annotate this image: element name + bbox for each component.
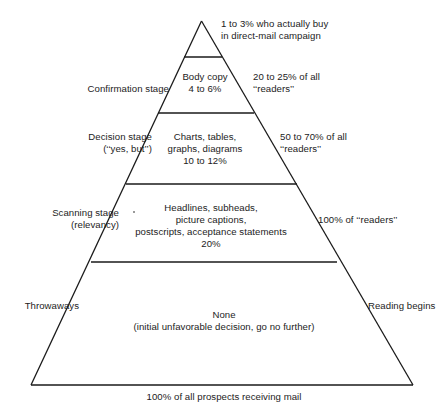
scanning-content-line2: picture captions, (176, 214, 247, 226)
decision-content-line2: graphs, diagrams (168, 143, 243, 155)
base-caption: 100% of all prospects receiving mail (147, 391, 302, 403)
decision-content-line3: 10 to 12% (183, 155, 227, 167)
scanning-stage-label-line2: (relevancy) (71, 219, 119, 231)
pyramid-diagram: 1 to 3% who actually buy in direct-mail … (0, 0, 447, 411)
base-right-label: Reading begins (368, 300, 435, 312)
scanning-stage-label-line1: Scanning stage (52, 207, 119, 219)
scanning-content-line3: postscripts, acceptance statements (135, 226, 287, 238)
confirmation-right-label-line1: 20 to 25% of all (253, 71, 320, 83)
confirmation-stage-label: Confirmation stage (88, 83, 169, 95)
confirmation-content-line2: 4 to 6% (189, 83, 222, 95)
decision-stage-label-line1: Decision stage (88, 131, 152, 143)
decision-right-label-line2: ‘‘readers’’ (280, 143, 321, 155)
print-speck (133, 211, 135, 213)
base-content-line1: None (212, 309, 235, 321)
base-content-line2: (initial unfavorable decision, go no fur… (134, 321, 315, 333)
scanning-content-line1: Headlines, subheads, (164, 202, 257, 214)
scanning-content-line4: 20% (201, 238, 220, 250)
scanning-right-label: 100% of ‘‘readers’’ (318, 214, 398, 226)
decision-right-label-line1: 50 to 70% of all (280, 131, 347, 143)
decision-stage-label-line2: (‘‘yes, but’’) (103, 143, 152, 155)
apex-right-label-line1: 1 to 3% who actually buy (221, 18, 328, 30)
confirmation-right-label-line2: ‘‘readers’’ (253, 83, 294, 95)
base-left-label: Throwaways (25, 300, 79, 312)
decision-content-line1: Charts, tables, (174, 131, 237, 143)
confirmation-content-line1: Body copy (182, 71, 227, 83)
apex-right-label-line2: in direct-mail campaign (221, 30, 321, 42)
